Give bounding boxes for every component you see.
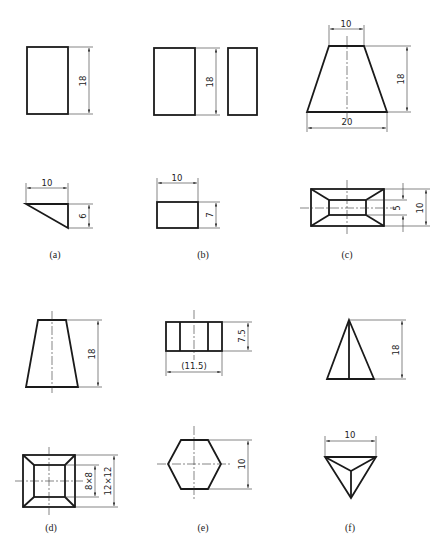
c-dim-top: 10 (341, 19, 352, 29)
caption-c: (c) (341, 249, 352, 261)
c-front-view: 10 18 20 (307, 19, 411, 132)
f-dim-width: 10 (345, 430, 356, 440)
c-dim-inner: 5 (392, 205, 402, 210)
caption-a: (a) (49, 249, 60, 261)
d-front-view: 18 (26, 311, 102, 393)
caption-e: (e) (197, 522, 208, 534)
panel-c: 10 18 20 5 10 (300, 19, 430, 261)
panel-d: 18 8×8 12×12 (d) (15, 311, 118, 534)
e-dim-across-flats: 10 (237, 459, 247, 470)
f-dim-height: 18 (391, 345, 401, 356)
d-dim-height: 18 (87, 349, 97, 360)
c-dim-height: 18 (396, 74, 406, 85)
e-front-view: 7.5 (11.5) (166, 310, 252, 376)
a-dim-width: 10 (42, 178, 53, 188)
a-dim-depth: 6 (78, 213, 88, 218)
panel-e: 7.5 (11.5) 10 (e) (157, 310, 252, 534)
caption-f: (f) (345, 522, 355, 534)
caption-d: (d) (45, 522, 57, 534)
d-top-view: 8×8 12×12 (15, 447, 118, 515)
c-top-view: 5 10 (300, 180, 430, 236)
f-top-view: 10 (325, 430, 376, 498)
b-dim-depth: 7 (205, 212, 215, 217)
panel-b: 18 10 7 (b) (154, 48, 257, 261)
b-dim-width: 10 (172, 173, 183, 183)
c-dim-outer: 10 (415, 203, 425, 214)
a-top-view: 10 6 (26, 178, 93, 228)
e-dim-height: 7.5 (237, 329, 247, 343)
b-top-view: 10 7 (157, 173, 220, 228)
drawing-canvas: 18 10 6 (a) 18 (0, 0, 441, 556)
b-front-view: 18 (154, 48, 220, 115)
a-front-view: 18 (27, 47, 93, 114)
e-dim-width: (11.5) (181, 361, 207, 371)
f-front-view: 18 (327, 320, 406, 379)
c-dim-bottom: 20 (342, 117, 353, 127)
a-dim-height: 18 (78, 76, 88, 87)
caption-b: (b) (197, 249, 209, 261)
b-dim-height: 18 (205, 77, 215, 88)
d-dim-outer: 12×12 (103, 467, 113, 496)
panel-f: 18 10 (f) (325, 320, 406, 534)
d-dim-inner: 8×8 (84, 472, 94, 490)
panel-a: 18 10 6 (a) (26, 47, 93, 261)
b-side-view (228, 48, 257, 115)
e-top-view: 10 (157, 426, 252, 501)
